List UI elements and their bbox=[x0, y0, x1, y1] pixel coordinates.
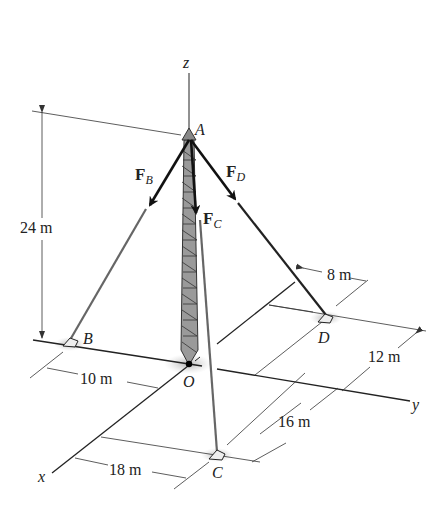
dimension-cy-label: 16 m bbox=[278, 413, 311, 430]
z-axis-label: z bbox=[182, 54, 190, 71]
origin-point bbox=[186, 361, 192, 367]
dimension-cx-label: 18 m bbox=[109, 461, 142, 478]
dimension-dx-label: 8 m bbox=[327, 266, 352, 283]
cable-ac bbox=[200, 220, 217, 452]
x-axis-back-2 bbox=[217, 282, 295, 344]
point-o-label: O bbox=[183, 373, 195, 390]
y-axis-label: y bbox=[410, 396, 420, 414]
dimension-height bbox=[32, 111, 181, 338]
construction-lines bbox=[101, 305, 426, 489]
point-d-label: D bbox=[317, 329, 330, 346]
point-c-label: C bbox=[212, 464, 223, 481]
axes bbox=[33, 73, 410, 473]
tower-cable-diagram: 24 m 10 m 8 m 12 m 16 m 18 m bbox=[0, 0, 443, 520]
tower bbox=[181, 128, 198, 365]
force-fd-label: FD bbox=[226, 162, 245, 184]
point-a-label: A bbox=[194, 121, 205, 138]
force-fc-label: FC bbox=[203, 209, 222, 231]
y-axis-right bbox=[217, 369, 410, 401]
point-b-label: B bbox=[83, 330, 93, 347]
dimension-dy-label: 12 m bbox=[368, 348, 401, 365]
x-axis bbox=[52, 366, 188, 473]
dimension-cy bbox=[252, 403, 301, 462]
cable-ad bbox=[238, 203, 326, 315]
y-axis-left bbox=[33, 340, 202, 366]
cable-ab bbox=[70, 209, 146, 340]
force-fb-label: FB bbox=[135, 165, 153, 187]
x-axis-label: x bbox=[37, 468, 45, 485]
dimension-ob-label: 10 m bbox=[80, 370, 113, 387]
dimension-height-label: 24 m bbox=[20, 219, 53, 236]
